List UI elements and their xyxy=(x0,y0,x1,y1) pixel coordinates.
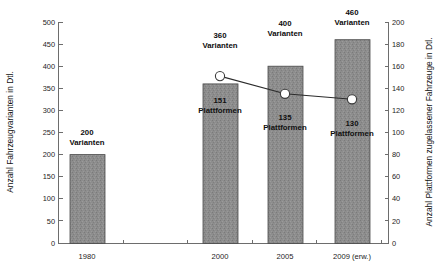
bar-label-2009-unit: Varianten xyxy=(334,18,369,27)
right-tick-label-5: 100 xyxy=(392,128,404,137)
bar-2009 xyxy=(335,40,370,244)
left-axis-title: Anzahl Fahrzeugvarianten in Dtl. xyxy=(5,71,15,193)
left-tick-label-4: 200 xyxy=(43,150,55,159)
bar-label-1980-unit: Varianten xyxy=(69,138,104,147)
plattformen-marker-2005 xyxy=(280,89,289,98)
plattformen-label-2005-unit: Plattformen xyxy=(263,123,307,132)
left-axis-tick-labels: 0 50 100 150 200 250 300 350 400 450 500 xyxy=(43,18,55,248)
left-tick-label-5: 250 xyxy=(43,128,55,137)
right-tick-label-8: 160 xyxy=(392,62,404,71)
right-tick-label-3: 60 xyxy=(392,172,400,181)
bar-label-2000-unit: Varianten xyxy=(202,41,237,50)
chart-container: 0 50 100 150 200 250 300 350 400 450 500… xyxy=(0,0,443,275)
bar-label-2000: 360 Varianten xyxy=(202,31,237,50)
bar-label-2005-unit: Varianten xyxy=(267,29,302,38)
left-axis: 0 50 100 150 200 250 300 350 400 450 500… xyxy=(5,18,63,248)
left-tick-label-3: 150 xyxy=(43,172,55,181)
right-axis: 0 20 40 60 80 100 120 140 160 180 200 An… xyxy=(385,18,435,248)
plattformen-label-2005-value: 135 xyxy=(278,113,292,122)
x-label-1980: 1980 xyxy=(79,252,96,261)
left-tick-label-0: 0 xyxy=(51,239,55,248)
bar-label-1980-value: 200 xyxy=(80,128,94,137)
x-label-2005: 2005 xyxy=(277,252,294,261)
left-axis-ticks xyxy=(59,22,63,243)
bar-label-2000-value: 360 xyxy=(213,31,227,40)
right-axis-tick-labels: 0 20 40 60 80 100 120 140 160 180 200 xyxy=(392,18,404,248)
left-tick-label-8: 400 xyxy=(43,62,55,71)
left-tick-label-6: 300 xyxy=(43,106,55,115)
right-axis-ticks xyxy=(385,22,389,243)
bar-label-2009: 460 Varianten xyxy=(334,8,369,27)
plattformen-marker-2000 xyxy=(215,72,224,81)
right-tick-label-9: 180 xyxy=(392,40,404,49)
bar-1980 xyxy=(70,155,105,244)
plattformen-label-2009-value: 130 xyxy=(345,119,359,128)
x-axis-category-labels: 1980 2000 2005 2009 (erw.) xyxy=(79,252,372,261)
right-tick-label-0: 0 xyxy=(392,239,396,248)
right-tick-label-1: 20 xyxy=(392,217,400,226)
chart-svg: 0 50 100 150 200 250 300 350 400 450 500… xyxy=(0,0,443,275)
plattformen-label-2000-value: 151 xyxy=(213,96,227,105)
left-tick-label-10: 500 xyxy=(43,18,55,27)
bar-label-1980: 200 Varianten xyxy=(69,128,104,147)
right-tick-label-6: 120 xyxy=(392,106,404,115)
bar-label-2005-value: 400 xyxy=(278,19,292,28)
left-tick-label-2: 100 xyxy=(43,194,55,203)
plattformen-label-2000-unit: Plattformen xyxy=(198,106,242,115)
bar-label-2009-value: 460 xyxy=(345,8,359,17)
right-tick-label-4: 80 xyxy=(392,150,400,159)
x-label-2009-erw: 2009 (erw.) xyxy=(333,252,371,261)
right-tick-label-2: 40 xyxy=(392,194,400,203)
left-tick-label-7: 350 xyxy=(43,84,55,93)
x-label-2000: 2000 xyxy=(212,252,229,261)
bar-label-2005: 400 Varianten xyxy=(267,19,302,38)
left-tick-label-9: 450 xyxy=(43,40,55,49)
right-tick-label-7: 140 xyxy=(392,84,404,93)
bar-series-varianten xyxy=(70,40,370,244)
right-axis-title: Anzahl Plattformen zugelassener Fahrzeug… xyxy=(424,37,434,226)
plattformen-marker-2009 xyxy=(347,95,356,104)
plattformen-label-2009-unit: Plattformen xyxy=(330,129,374,138)
left-tick-label-1: 50 xyxy=(47,217,55,226)
right-tick-label-10: 200 xyxy=(392,18,404,27)
